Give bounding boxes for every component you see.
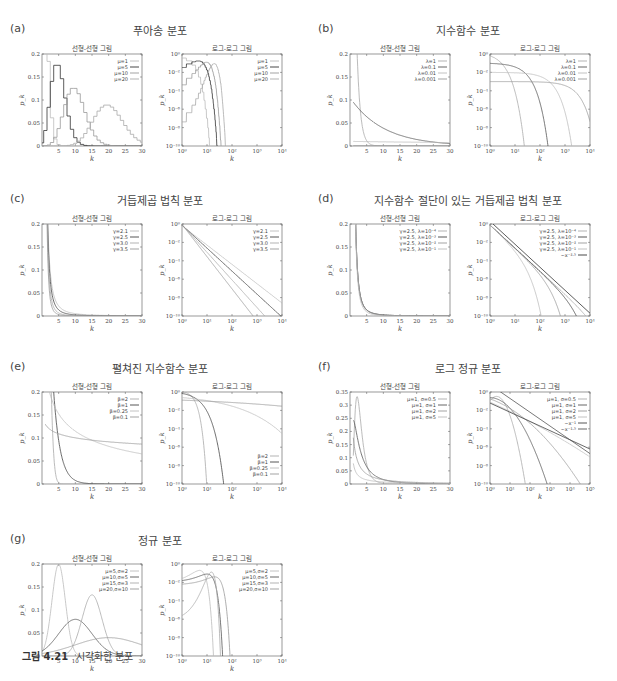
linear-plot: 선형-선형 그림5101520253000.050.10.150.2kp_kγ=… bbox=[326, 210, 466, 350]
panel-f: (f)로그 정규 분포선형-선형 그림5101520253000.050.10.… bbox=[318, 360, 617, 520]
svg-text:p_k: p_k bbox=[466, 432, 474, 443]
svg-text:15: 15 bbox=[397, 486, 404, 492]
svg-text:k: k bbox=[538, 325, 542, 333]
svg-text:10: 10 bbox=[380, 486, 387, 492]
svg-text:0.3: 0.3 bbox=[339, 402, 348, 408]
svg-text:10⁻⁶: 10⁻⁶ bbox=[476, 106, 489, 112]
svg-text:30: 30 bbox=[139, 486, 146, 492]
svg-text:10⁻⁸: 10⁻⁸ bbox=[168, 295, 181, 301]
svg-text:10⁰: 10⁰ bbox=[479, 51, 489, 57]
curve bbox=[40, 105, 143, 146]
svg-text:10³: 10³ bbox=[252, 148, 261, 154]
svg-text:0: 0 bbox=[345, 313, 349, 319]
svg-text:10²: 10² bbox=[535, 148, 544, 154]
svg-text:선형-선형 그림: 선형-선형 그림 bbox=[72, 44, 112, 53]
svg-text:10⁻⁴: 10⁻⁴ bbox=[476, 426, 489, 432]
svg-text:10⁻²: 10⁻² bbox=[168, 239, 180, 245]
svg-text:10⁴: 10⁴ bbox=[565, 486, 575, 492]
svg-text:20: 20 bbox=[413, 486, 420, 492]
svg-text:10⁻¹⁰: 10⁻¹⁰ bbox=[166, 481, 181, 487]
svg-text:0.05: 0.05 bbox=[28, 630, 41, 636]
svg-text:10⁻¹⁰: 10⁻¹⁰ bbox=[474, 481, 489, 487]
svg-text:p_k: p_k bbox=[326, 94, 334, 105]
svg-text:30: 30 bbox=[447, 318, 454, 324]
svg-text:20: 20 bbox=[105, 486, 112, 492]
svg-text:p_k: p_k bbox=[18, 264, 26, 275]
svg-text:10⁰: 10⁰ bbox=[479, 389, 489, 395]
svg-text:10⁻⁶: 10⁻⁶ bbox=[476, 444, 489, 450]
panel-title: 로그 정규 분포 bbox=[318, 360, 617, 376]
svg-text:k: k bbox=[230, 493, 234, 501]
linear-plot: 선형-선형 그림5101520253000.050.10.150.2kp_kμ=… bbox=[18, 40, 158, 180]
panel-e: (e)펼쳐진 지수함수 분포선형-선형 그림5101520253000.050.… bbox=[10, 360, 310, 520]
svg-text:p_k: p_k bbox=[18, 94, 26, 105]
svg-text:10⁻²: 10⁻² bbox=[476, 239, 488, 245]
svg-text:10⁻⁴: 10⁻⁴ bbox=[168, 426, 181, 432]
svg-text:5: 5 bbox=[57, 486, 61, 492]
svg-text:10³: 10³ bbox=[560, 148, 569, 154]
svg-text:10¹: 10¹ bbox=[510, 148, 519, 154]
caption-label: 그림 4.21 bbox=[22, 651, 68, 662]
svg-text:15: 15 bbox=[397, 148, 404, 154]
svg-text:0.05: 0.05 bbox=[28, 120, 41, 126]
svg-text:0.05: 0.05 bbox=[336, 468, 349, 474]
svg-text:10⁻⁸: 10⁻⁸ bbox=[168, 635, 181, 641]
curve bbox=[353, 420, 453, 483]
svg-text:p_k: p_k bbox=[466, 94, 474, 105]
curve bbox=[353, 438, 453, 484]
svg-text:10⁻⁶: 10⁻⁶ bbox=[168, 276, 181, 282]
svg-text:10⁴: 10⁴ bbox=[277, 658, 287, 664]
svg-text:k: k bbox=[230, 155, 234, 163]
svg-text:20: 20 bbox=[105, 148, 112, 154]
svg-text:20: 20 bbox=[105, 318, 112, 324]
panel-title: 정규 분포 bbox=[10, 532, 310, 548]
svg-text:0.1: 0.1 bbox=[31, 607, 40, 613]
svg-text:λ=0.001: λ=0.001 bbox=[415, 76, 436, 82]
svg-text:30: 30 bbox=[447, 148, 454, 154]
svg-text:10³: 10³ bbox=[545, 486, 554, 492]
curve bbox=[40, 65, 143, 146]
svg-text:0.15: 0.15 bbox=[28, 584, 41, 590]
svg-text:10²: 10² bbox=[525, 486, 534, 492]
svg-text:10⁻⁸: 10⁻⁸ bbox=[476, 125, 489, 131]
linear-plot: 선형-선형 그림5101520253000.050.10.150.2kp_kλ=… bbox=[326, 40, 466, 180]
svg-text:0.1: 0.1 bbox=[339, 97, 348, 103]
curve bbox=[353, 397, 453, 484]
svg-text:10⁻⁸: 10⁻⁸ bbox=[476, 463, 489, 469]
svg-text:0.2: 0.2 bbox=[31, 51, 40, 57]
svg-text:15: 15 bbox=[397, 318, 404, 324]
curve bbox=[40, 88, 143, 146]
svg-text:20: 20 bbox=[413, 148, 420, 154]
curve bbox=[353, 102, 453, 144]
svg-text:μ=20: μ=20 bbox=[114, 76, 128, 83]
svg-text:k: k bbox=[398, 155, 402, 163]
svg-text:10³: 10³ bbox=[252, 318, 261, 324]
svg-text:0.1: 0.1 bbox=[31, 267, 40, 273]
svg-text:30: 30 bbox=[139, 318, 146, 324]
svg-text:20: 20 bbox=[413, 318, 420, 324]
svg-text:10¹: 10¹ bbox=[202, 486, 211, 492]
svg-text:k: k bbox=[90, 155, 94, 163]
svg-text:μ=20,σ=10: μ=20,σ=10 bbox=[99, 586, 128, 593]
svg-text:10: 10 bbox=[72, 486, 79, 492]
svg-text:로그-로그 그림: 로그-로그 그림 bbox=[520, 45, 560, 53]
svg-text:10¹: 10¹ bbox=[510, 318, 519, 324]
panel-title: 펼쳐진 지수함수 분포 bbox=[10, 360, 310, 376]
svg-text:10⁻⁸: 10⁻⁸ bbox=[168, 125, 181, 131]
loglog-plot: 로그-로그 그림10⁰10¹10²10³10⁴10⁵10⁻¹⁰10⁻⁸10⁻⁶1… bbox=[466, 378, 606, 518]
svg-text:μ=20: μ=20 bbox=[254, 76, 268, 83]
svg-text:p_k: p_k bbox=[18, 604, 26, 615]
svg-text:10⁴: 10⁴ bbox=[277, 148, 287, 154]
svg-text:p_k: p_k bbox=[158, 604, 166, 615]
svg-text:25: 25 bbox=[122, 486, 129, 492]
svg-text:10⁻⁸: 10⁻⁸ bbox=[168, 463, 181, 469]
svg-text:10³: 10³ bbox=[252, 658, 261, 664]
loglog-plot: 로그-로그 그림10⁰10¹10²10³10⁴10⁻¹⁰10⁻⁸10⁻⁶10⁻⁴… bbox=[466, 40, 606, 180]
svg-text:10⁻⁸: 10⁻⁸ bbox=[476, 295, 489, 301]
svg-text:k: k bbox=[90, 325, 94, 333]
curve bbox=[353, 463, 453, 483]
svg-text:10¹: 10¹ bbox=[202, 318, 211, 324]
svg-text:0.1: 0.1 bbox=[339, 267, 348, 273]
svg-text:10²: 10² bbox=[227, 658, 236, 664]
svg-text:10⁰: 10⁰ bbox=[171, 221, 181, 227]
